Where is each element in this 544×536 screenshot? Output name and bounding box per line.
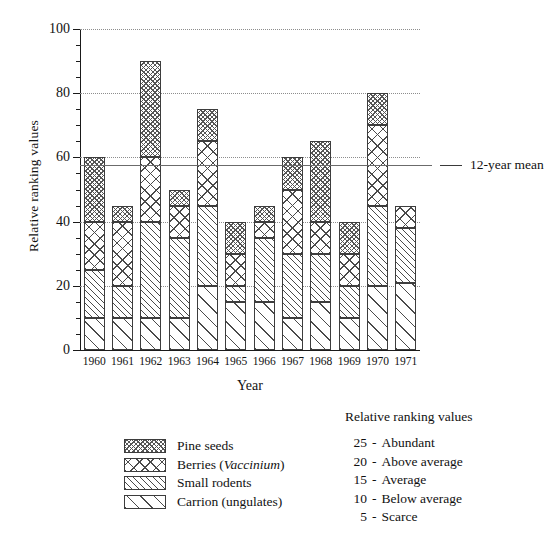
ranking-key: Relative ranking values 25-Abundant20-Ab… — [345, 409, 472, 527]
bar-segment-berries — [169, 206, 190, 238]
bar-segment-rodents — [367, 206, 388, 286]
bar-segment-pine — [339, 222, 360, 254]
bar-segment-pine — [112, 206, 133, 222]
bar-segment-berries — [339, 254, 360, 286]
bar-segment-pine — [282, 157, 303, 189]
mean-line — [80, 165, 432, 166]
legend-label: Pine seeds — [177, 438, 234, 454]
bar-1968 — [310, 141, 331, 350]
ranking-key-value: 20 — [345, 454, 367, 470]
bar-segment-carrion — [84, 318, 105, 350]
bar-1960 — [84, 157, 105, 350]
y-tick-mark — [73, 222, 80, 223]
bar-segment-rodents — [112, 286, 133, 318]
ranking-key-description: Above average — [382, 454, 463, 470]
ranking-key-row: 25-Abundant — [345, 434, 472, 453]
bar-segment-berries — [84, 222, 105, 270]
bar-segment-rodents — [169, 238, 190, 318]
ranking-key-row: 5-Scarce — [345, 508, 472, 527]
ranking-key-row: 20-Above average — [345, 453, 472, 472]
axes: 020406080100 196019611962196319641965196… — [80, 29, 420, 350]
ranking-key-title: Relative ranking values — [345, 409, 472, 425]
x-tick-label: 1962 — [139, 355, 162, 367]
ranking-key-row: 15-Average — [345, 471, 472, 490]
x-tick-label: 1970 — [366, 355, 389, 367]
x-tick-label: 1968 — [309, 355, 332, 367]
bar-1969 — [339, 222, 360, 350]
bar-segment-carrion — [310, 302, 331, 350]
ranking-key-description: Scarce — [382, 509, 418, 525]
bar-segment-berries — [395, 206, 416, 228]
x-tick-label: 1971 — [394, 355, 417, 367]
bar-1966 — [254, 206, 275, 350]
x-tick-label: 1969 — [338, 355, 361, 367]
legend-swatch-icon — [124, 495, 166, 509]
ranking-key-separator: - — [367, 454, 382, 470]
ranking-key-separator: - — [367, 509, 382, 525]
bar-1971 — [395, 206, 416, 350]
bar-segment-rodents — [84, 270, 105, 318]
x-tick-label: 1960 — [83, 355, 106, 367]
legend-swatch-icon — [124, 458, 166, 472]
bar-segment-carrion — [140, 318, 161, 350]
bar-segment-pine — [254, 206, 275, 222]
bar-segment-pine — [367, 93, 388, 125]
y-tick-label: 40 — [56, 215, 70, 229]
bar-segment-rodents — [339, 286, 360, 318]
x-tick-label: 1961 — [111, 355, 134, 367]
ranking-key-value: 25 — [345, 435, 367, 451]
legend-item: Small rodents — [124, 474, 285, 493]
x-tick-label: 1966 — [253, 355, 276, 367]
legend-label: Carrion (ungulates) — [177, 494, 282, 510]
bar-segment-berries — [310, 222, 331, 254]
bar-segment-carrion — [395, 283, 416, 350]
bar-segment-carrion — [254, 302, 275, 350]
bar-segment-rodents — [140, 222, 161, 318]
bar-segment-carrion — [282, 318, 303, 350]
bar-segment-carrion — [339, 318, 360, 350]
ranking-key-value: 5 — [345, 509, 367, 525]
bar-segment-pine — [84, 157, 105, 221]
y-tick-label: 80 — [56, 86, 70, 100]
x-tick-label: 1963 — [168, 355, 191, 367]
bar-1964 — [197, 109, 218, 350]
ranking-key-separator: - — [367, 472, 382, 488]
bar-segment-pine — [169, 190, 190, 206]
x-tick-label: 1967 — [281, 355, 304, 367]
bar-1967 — [282, 157, 303, 350]
ranking-key-rows: 25-Abundant20-Above average15-Average10-… — [345, 434, 472, 527]
mean-line-label: 12-year mean — [470, 157, 544, 173]
ranking-key-separator: - — [367, 491, 382, 507]
y-tick-mark — [73, 157, 80, 158]
bar-segment-rodents — [225, 286, 246, 302]
bar-segment-berries — [282, 190, 303, 254]
bar-segment-pine — [310, 141, 331, 221]
legend-item: Berries (Vaccinium) — [124, 456, 285, 475]
bar-segment-berries — [112, 222, 133, 286]
ranking-key-value: 10 — [345, 491, 367, 507]
bar-segment-carrion — [367, 286, 388, 350]
bar-segment-rodents — [310, 254, 331, 302]
bar-segment-rodents — [395, 228, 416, 283]
x-axis-title: Year — [80, 378, 420, 394]
x-tick-label: 1965 — [224, 355, 247, 367]
y-tick-mark — [73, 286, 80, 287]
bar-segment-berries — [225, 254, 246, 286]
legend-item: Pine seeds — [124, 437, 285, 456]
ranking-key-separator: - — [367, 435, 382, 451]
y-tick-mark — [73, 93, 80, 94]
legend: Pine seedsBerries (Vaccinium)Small roden… — [124, 437, 285, 511]
ranking-key-description: Below average — [382, 491, 463, 507]
legend-swatch-icon — [124, 439, 166, 453]
bar-segment-carrion — [197, 286, 218, 350]
bar-segment-carrion — [225, 302, 246, 350]
legend-item: Carrion (ungulates) — [124, 493, 285, 512]
bar-1962 — [140, 61, 161, 350]
y-tick-label: 60 — [56, 150, 70, 164]
bar-segment-rodents — [254, 238, 275, 302]
bar-1965 — [225, 222, 246, 350]
bar-segment-carrion — [112, 318, 133, 350]
y-tick-mark — [73, 350, 80, 351]
y-tick-mark — [73, 29, 80, 30]
